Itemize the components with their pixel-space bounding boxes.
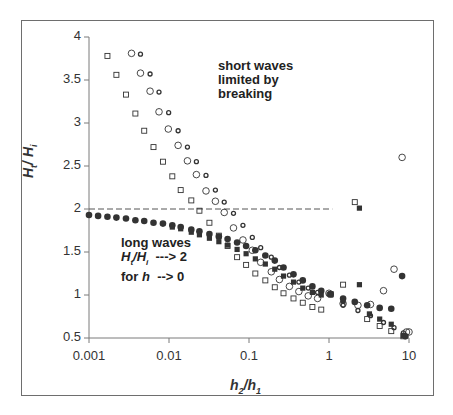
x-title-h2: /h	[244, 377, 256, 393]
annotation-line: breaking	[218, 87, 293, 101]
filled-circle-marker	[290, 271, 297, 278]
filled-square-marker	[272, 267, 277, 272]
y-tick-label: 1	[74, 286, 81, 301]
y-title-sub-t: t	[29, 165, 39, 168]
open-diamond-marker	[250, 235, 254, 239]
filled-circle-marker	[376, 305, 383, 312]
open-square-marker	[310, 305, 315, 310]
filled-circle-marker	[252, 247, 259, 254]
filled-circle-marker	[243, 243, 250, 250]
annotation-long-waves: long waves Ht/Hi ---> 2 for h --> 0	[121, 236, 191, 284]
filled-circle-marker	[216, 233, 223, 240]
x-tick-label: 0.1	[219, 348, 279, 363]
open-square-marker	[272, 285, 277, 290]
filled-circle-marker	[150, 219, 157, 226]
filled-circle-marker	[271, 257, 278, 264]
open-circle-marker	[147, 88, 154, 95]
open-square-marker	[189, 198, 194, 203]
open-circle-marker	[165, 126, 172, 133]
filled-square-marker	[319, 292, 324, 297]
filled-circle-marker	[234, 239, 241, 246]
filled-circle-marker	[160, 220, 167, 227]
open-circle-marker	[128, 50, 135, 57]
open-square-marker	[170, 174, 175, 179]
open-square-marker	[133, 111, 138, 116]
filled-square-marker	[401, 333, 406, 338]
open-diamond-marker	[259, 246, 263, 250]
open-circle-marker	[221, 209, 228, 216]
filled-circle-marker	[113, 214, 120, 221]
filled-circle-marker	[388, 305, 395, 312]
filled-square-marker	[357, 206, 362, 211]
filled-circle-marker	[141, 218, 148, 225]
open-circle-marker	[212, 198, 219, 205]
open-square-marker	[123, 92, 128, 97]
filled-circle-marker	[351, 299, 358, 306]
open-square-marker	[352, 200, 357, 205]
open-diamond-marker	[241, 223, 245, 227]
filled-circle-marker	[104, 213, 111, 220]
annotation-line: limited by	[218, 73, 293, 87]
open-square-marker	[207, 220, 212, 225]
filled-square-marker	[357, 282, 362, 287]
open-diamond-marker	[138, 52, 142, 56]
x-tick-label: 0.001	[59, 348, 119, 363]
open-diamond-marker	[194, 160, 198, 164]
open-circle-marker	[399, 154, 406, 161]
filled-square-marker	[377, 316, 382, 321]
open-diamond-marker	[148, 72, 152, 76]
filled-square-marker	[263, 261, 268, 266]
open-square-marker	[244, 262, 249, 267]
filled-circle-marker	[280, 264, 287, 271]
annotation-line: short waves	[218, 59, 293, 73]
filled-square-marker	[310, 290, 315, 295]
y-axis-title: Ht/ Hi	[20, 144, 39, 178]
filled-circle-marker	[299, 277, 306, 284]
filled-square-marker	[253, 256, 258, 261]
x-title-sub-1: 1	[256, 386, 261, 396]
filled-circle-marker	[364, 302, 371, 309]
annotation-line: Ht/Hi ---> 2	[121, 250, 191, 270]
y-tick-label: 4	[74, 28, 81, 43]
open-circle-marker	[230, 225, 237, 232]
y-title-sub-i: i	[29, 144, 39, 147]
open-square-marker	[151, 145, 156, 150]
open-diamond-marker	[204, 173, 208, 177]
filled-square-marker	[291, 280, 296, 285]
annotation-line: for h --> 0	[121, 270, 191, 284]
open-square-marker	[291, 296, 296, 301]
filled-circle-marker	[95, 213, 102, 220]
filled-circle-marker	[309, 283, 316, 290]
open-circle-marker	[175, 142, 182, 149]
open-square-marker	[253, 271, 258, 276]
open-square-marker	[319, 307, 324, 312]
open-square-marker	[377, 323, 382, 328]
filled-square-marker	[281, 273, 286, 278]
open-diamond-marker	[356, 308, 360, 312]
open-circle-marker	[203, 188, 210, 195]
filled-circle-marker	[123, 215, 130, 222]
open-circle-marker	[380, 287, 387, 294]
open-square-marker	[341, 282, 346, 287]
filled-circle-marker	[224, 236, 231, 243]
open-circle-marker	[137, 70, 144, 77]
filled-square-marker	[170, 224, 175, 229]
filled-circle-marker	[86, 212, 93, 219]
open-square-marker	[160, 159, 165, 164]
x-axis-title: h2/h1	[230, 377, 261, 396]
open-diamond-marker	[185, 145, 189, 149]
open-diamond-marker	[167, 111, 171, 115]
x-title-h: h	[230, 377, 239, 393]
y-title-h2: / H	[20, 147, 36, 165]
open-diamond-marker	[222, 200, 226, 204]
y-title-h: H	[20, 168, 36, 178]
open-diamond-marker	[176, 129, 180, 133]
y-tick-label: 1.5	[63, 243, 81, 258]
filled-circle-marker	[399, 273, 406, 280]
open-diamond-marker	[231, 211, 235, 215]
open-circle-marker	[391, 266, 398, 273]
open-square-marker	[178, 188, 183, 193]
open-circle-marker	[156, 109, 163, 116]
open-circle-marker	[193, 171, 200, 178]
filled-square-marker	[367, 311, 372, 316]
